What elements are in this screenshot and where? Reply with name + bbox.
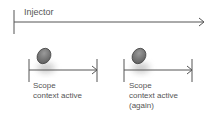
- scope-2-line2: context active: [129, 91, 178, 101]
- scope-2-line3: (again): [129, 101, 178, 111]
- scope-2-label: Scope context active (again): [129, 81, 178, 111]
- scope-1-label: Scope context active: [33, 81, 82, 101]
- scope-timeline-1: [29, 46, 97, 82]
- scope-1-line1: Scope: [33, 81, 82, 91]
- scope-2-line1: Scope: [129, 81, 178, 91]
- scope-1-line2: context active: [33, 91, 82, 101]
- scope-ellipse-icon: [129, 46, 148, 66]
- scope-ellipse-icon: [34, 46, 53, 66]
- scope-timeline-2: [124, 46, 192, 82]
- injector-label: Injector: [24, 7, 54, 17]
